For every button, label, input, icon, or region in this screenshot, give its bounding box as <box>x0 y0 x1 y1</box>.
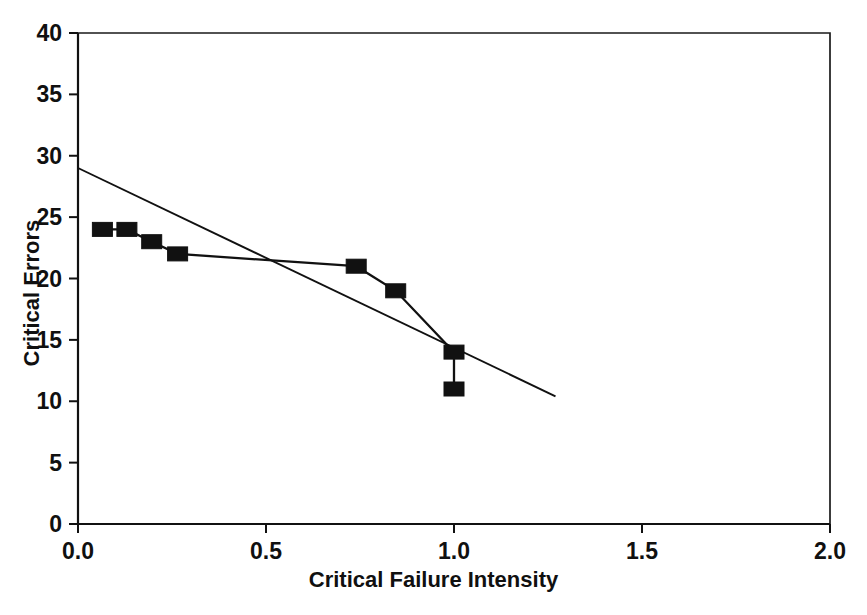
data-marker-3 <box>168 247 188 261</box>
x-axis-label-1.0: 1.0 <box>438 538 470 565</box>
y-axis-label-0: 0 <box>0 511 62 538</box>
x-axis-label-1.5: 1.5 <box>626 538 658 565</box>
y-axis-label-20: 20 <box>0 265 62 292</box>
plot-axis-left-bottom <box>78 33 830 524</box>
y-axis-label-25: 25 <box>0 204 62 231</box>
data-point-markers <box>92 222 464 396</box>
y-axis-label-40: 40 <box>0 20 62 47</box>
chart-plot-area <box>0 0 867 615</box>
y-axis-label-30: 30 <box>0 142 62 169</box>
data-marker-4 <box>346 259 366 273</box>
trend-line-path <box>78 168 556 396</box>
plot-frame <box>78 33 830 524</box>
y-axis-label-35: 35 <box>0 81 62 108</box>
axis-ticks <box>69 33 830 533</box>
data-marker-6 <box>444 345 464 359</box>
series-connecting-path <box>102 229 454 389</box>
data-marker-7 <box>444 382 464 396</box>
data-series-line <box>102 229 454 389</box>
y-axis-label-10: 10 <box>0 388 62 415</box>
data-marker-5 <box>386 284 406 298</box>
chart-container: 0510152025303540 0.00.51.01.52.0 Critica… <box>0 0 867 615</box>
data-marker-1 <box>117 222 137 236</box>
x-axis-title: Critical Failure Intensity <box>0 567 867 593</box>
x-axis-label-0.5: 0.5 <box>250 538 282 565</box>
data-marker-0 <box>92 222 112 236</box>
y-axis-label-15: 15 <box>0 326 62 353</box>
x-axis-label-0.0: 0.0 <box>62 538 94 565</box>
trend-line-series <box>78 168 556 396</box>
plot-border-top-right <box>78 33 830 524</box>
x-axis-label-2.0: 2.0 <box>814 538 846 565</box>
y-axis-label-5: 5 <box>0 449 62 476</box>
data-marker-2 <box>142 235 162 249</box>
